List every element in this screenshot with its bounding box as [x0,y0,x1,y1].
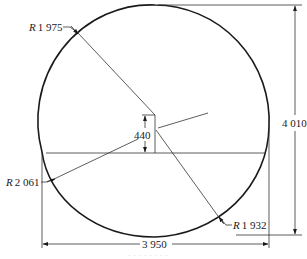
technical-drawing: R1 975 R2 061 R1 932 440 4 010 3 950 · ·… [0,0,307,259]
radius-2061-label: R2 061 [5,176,39,188]
figure-caption: · · · · · · · · [128,250,168,259]
radius-2061-leader [41,113,208,182]
radius-1975-leader [63,26,155,115]
radius-1975-label: R1 975 [28,21,63,33]
radius-1932-label: R1 932 [232,219,266,231]
offset-dimension-label: 440 [134,129,151,141]
outline-shape [38,5,269,237]
width-dimension-label: 3 950 [142,238,167,250]
height-dimension-label: 4 010 [282,117,307,129]
radius-1932-leader [156,130,232,225]
drawing-canvas: R1 975 R2 061 R1 932 440 4 010 3 950 · ·… [0,0,307,259]
